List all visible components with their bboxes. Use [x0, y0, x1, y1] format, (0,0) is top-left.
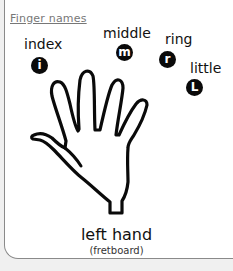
hand-caption: left hand	[0, 225, 233, 244]
hand-subcaption: (fretboard)	[0, 245, 233, 256]
